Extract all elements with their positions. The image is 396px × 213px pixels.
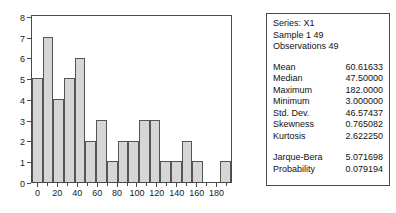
histogram-bar — [75, 58, 86, 183]
y-axis-tick: 4 — [20, 95, 31, 105]
stat-label: Minimum — [273, 96, 310, 108]
x-axis-tick-mark — [37, 183, 38, 187]
y-axis: 012345678 — [0, 10, 31, 188]
y-axis-tick-label: 8 — [20, 13, 25, 23]
x-axis-minor-tick — [107, 183, 108, 186]
y-axis-tick: 7 — [20, 33, 31, 43]
spacer — [273, 53, 383, 62]
descriptive-statistics-list: Mean60.61633Median47.50000Maximum182.000… — [273, 62, 383, 143]
x-axis-tick: 60 — [97, 183, 98, 187]
x-axis-tick: 100 — [136, 183, 137, 187]
x-axis-tick-mark — [216, 183, 217, 187]
spacer — [273, 142, 383, 152]
x-axis-tick-mark — [87, 183, 88, 186]
x-axis-tick: 140 — [176, 183, 177, 187]
statistic-row: Maximum182.0000 — [273, 85, 383, 97]
histogram-bar — [107, 161, 118, 182]
stat-label: Probability — [273, 164, 315, 176]
stat-value: 0.079194 — [345, 164, 383, 176]
histogram-bar — [128, 141, 139, 183]
x-axis-tick-mark — [97, 183, 98, 187]
histogram-bar — [32, 78, 43, 182]
stat-label: Kurtosis — [273, 131, 306, 143]
stat-label: Maximum — [273, 85, 312, 97]
statistics-panel: Series: X1 Sample 1 49 Observations 49 M… — [266, 13, 390, 186]
x-axis-tick-mark — [117, 183, 118, 187]
sample-label: Sample 1 49 — [273, 30, 383, 42]
plot-area — [32, 16, 231, 182]
x-axis-tick: 0 — [37, 183, 38, 187]
x-axis-tick-mark — [186, 183, 187, 186]
y-axis-tick-label: 0 — [20, 179, 25, 189]
x-axis-tick-mark — [166, 183, 167, 186]
x-axis-tick-label: 180 — [209, 188, 224, 198]
x-axis-tick-mark — [156, 183, 157, 187]
x-axis-tick: 120 — [156, 183, 157, 187]
histogram-bar — [64, 78, 75, 182]
statistic-row: Minimum3.000000 — [273, 96, 383, 108]
x-axis: 020406080100120140160180 — [31, 183, 232, 209]
x-axis-tick: 80 — [117, 183, 118, 187]
stat-label: Jarque-Bera — [273, 152, 323, 164]
x-axis-tick-mark — [77, 183, 78, 187]
stat-label: Std. Dev. — [273, 108, 309, 120]
stat-value: 2.622250 — [345, 131, 383, 143]
histogram-bar — [160, 161, 171, 182]
x-axis-tick-label: 40 — [72, 188, 82, 198]
x-axis-tick-label: 80 — [112, 188, 122, 198]
observations-label: Observations 49 — [273, 41, 383, 53]
x-axis-tick-mark — [127, 183, 128, 186]
histogram-bar — [96, 120, 107, 182]
y-axis-tick-label: 4 — [20, 96, 25, 106]
x-axis-minor-tick — [226, 183, 227, 186]
x-axis-minor-tick — [47, 183, 48, 186]
statistic-row: Median47.50000 — [273, 73, 383, 85]
histogram-bar — [118, 141, 129, 183]
histogram-bar — [171, 161, 182, 182]
x-axis-tick-mark — [206, 183, 207, 186]
y-axis-tick-label: 2 — [20, 137, 25, 147]
histogram-bar — [192, 161, 203, 182]
y-axis-tick-label: 7 — [20, 34, 25, 44]
y-axis-tick-label: 3 — [20, 117, 25, 127]
series-label: Series: X1 — [273, 18, 383, 30]
x-axis-minor-tick — [127, 183, 128, 186]
plot-frame — [31, 15, 232, 183]
x-axis-tick-mark — [57, 183, 58, 187]
histogram-bar — [53, 99, 64, 182]
statistic-row: Std. Dev.46.57437 — [273, 108, 383, 120]
test-statistic-row: Jarque-Bera5.071698 — [273, 152, 383, 164]
y-axis-tick-label: 5 — [20, 75, 25, 85]
x-axis-tick: 160 — [196, 183, 197, 187]
histogram-bar — [139, 120, 150, 182]
x-axis-tick-label: 20 — [52, 188, 62, 198]
y-axis-tick: 5 — [20, 74, 31, 84]
x-axis-tick-label: 140 — [169, 188, 184, 198]
stat-label: Mean — [273, 62, 296, 74]
x-axis-tick-label: 0 — [35, 188, 40, 198]
x-axis-tick-mark — [107, 183, 108, 186]
y-axis-tick-label: 1 — [20, 158, 25, 168]
x-axis-tick-mark — [226, 183, 227, 186]
histogram-bar — [182, 141, 193, 183]
y-axis-tick-label: 6 — [20, 54, 25, 64]
y-axis-tick: 2 — [20, 137, 31, 147]
stat-label: Median — [273, 73, 303, 85]
histogram-panel: 012345678 020406080100120140160180 — [0, 0, 238, 213]
x-axis-tick-label: 60 — [92, 188, 102, 198]
x-axis-minor-tick — [146, 183, 147, 186]
x-axis-tick: 20 — [57, 183, 58, 187]
histogram-summary-view: 012345678 020406080100120140160180 Serie… — [0, 0, 396, 213]
x-axis-minor-tick — [67, 183, 68, 186]
y-axis-tick: 1 — [20, 157, 31, 167]
x-axis-tick-mark — [47, 183, 48, 186]
y-axis-tick: 0 — [20, 178, 31, 188]
stat-value: 3.000000 — [345, 96, 383, 108]
x-axis-minor-tick — [186, 183, 187, 186]
x-axis-tick: 40 — [77, 183, 78, 187]
y-axis-tick: 8 — [20, 12, 31, 22]
histogram-bar — [43, 37, 54, 182]
x-axis-tick: 180 — [216, 183, 217, 187]
stat-value: 46.57437 — [345, 108, 383, 120]
normality-test-list: Jarque-Bera5.071698Probability0.079194 — [273, 152, 383, 175]
